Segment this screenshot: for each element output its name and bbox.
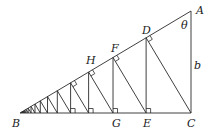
label-G: G xyxy=(112,117,121,130)
perpendicular-to-hyp-5 xyxy=(48,97,58,113)
label-H: H xyxy=(85,54,96,67)
label-A: A xyxy=(195,4,204,17)
label-E: E xyxy=(142,117,151,130)
label-b: b xyxy=(194,59,201,72)
label-B: B xyxy=(11,117,20,130)
perpendicular-to-hyp-7 xyxy=(35,104,40,113)
label-theta: θ xyxy=(181,19,188,32)
perpendicular-to-hyp-2 xyxy=(89,72,113,113)
hypotenuse-AB xyxy=(20,11,191,113)
right-angle-base-0 xyxy=(146,109,151,114)
construction-lines xyxy=(20,11,191,113)
perpendicular-to-hyp-6 xyxy=(40,101,47,113)
right-angle-base-3 xyxy=(71,109,76,114)
label-F: F xyxy=(110,42,119,55)
perpendicular-to-hyp-8 xyxy=(31,106,35,113)
perpendicular-to-hyp-4 xyxy=(57,91,70,113)
label-D: D xyxy=(141,24,151,37)
label-C: C xyxy=(187,117,196,130)
triangle-diagram: A B C D E F G H θ b xyxy=(0,0,210,136)
perpendicular-to-hyp-0 xyxy=(146,38,191,113)
right-angle-base-1 xyxy=(113,109,118,114)
perpendicular-to-hyp-1 xyxy=(113,58,146,113)
right-angle-base-2 xyxy=(89,109,94,114)
